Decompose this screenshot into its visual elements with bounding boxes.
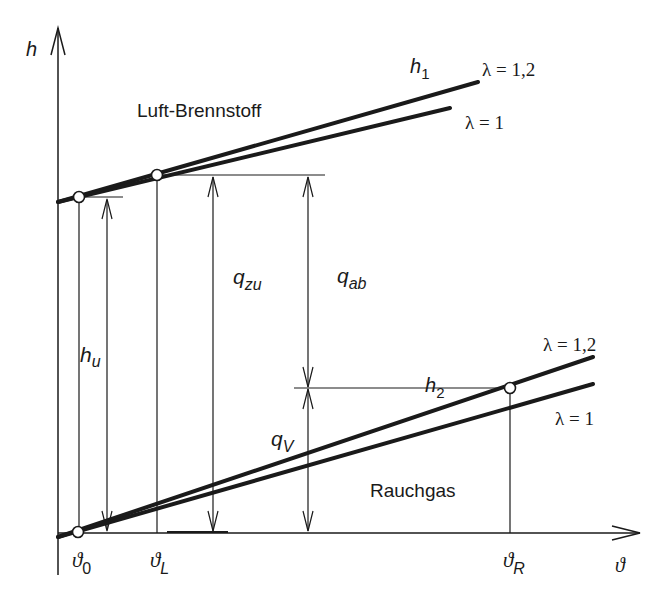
- dimension-label-qv: qV: [271, 427, 295, 455]
- point-thetaR-lower: [505, 383, 516, 394]
- dimension-arrows: [102, 177, 313, 531]
- curve-air-fuel-lambda-1: [58, 108, 450, 202]
- curve-label-upper-lambda-1-2: λ = 1,2: [482, 59, 535, 80]
- dimension-label-qab: qab: [337, 264, 367, 292]
- enthalpy-temperature-diagram: h ϑ Luft-Brennstoff Rauchgas h1 λ = 1,2 …: [0, 0, 659, 602]
- curve-air-fuel-lambda-1-2: [58, 82, 478, 202]
- curve-label-h1: h1: [410, 55, 429, 82]
- x-axis-label: ϑ: [615, 554, 626, 576]
- curve-label-lower-lambda-1: λ = 1: [555, 408, 594, 429]
- x-tick-theta0: ϑ0: [72, 548, 91, 577]
- upper-curves: [58, 82, 478, 202]
- y-axis-label: h: [26, 38, 37, 60]
- point-theta0-lower: [73, 527, 84, 538]
- curve-label-upper-lambda-1: λ = 1: [465, 112, 504, 133]
- point-theta0-upper: [74, 192, 85, 203]
- dimension-label-qzu: qzu: [233, 265, 262, 293]
- curve-label-lower-lambda-1-2: λ = 1,2: [543, 334, 596, 355]
- curve-label-h2: h2: [425, 374, 444, 401]
- x-tick-thetaL: ϑL: [150, 548, 169, 577]
- region-label-air-fuel: Luft-Brennstoff: [137, 100, 262, 121]
- dimension-label-hu: hu: [80, 343, 101, 370]
- region-label-fluegas: Rauchgas: [370, 480, 456, 501]
- curve-fluegas-lambda-1: [58, 384, 593, 537]
- point-thetaL-upper: [152, 170, 163, 181]
- x-tick-thetaR: ϑR: [503, 548, 525, 577]
